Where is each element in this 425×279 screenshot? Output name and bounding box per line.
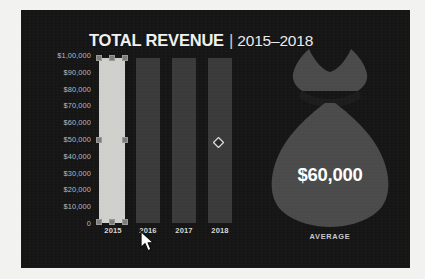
resize-handle-bottom-center[interactable]	[109, 219, 115, 225]
chart-title[interactable]: TOTAL REVENUE | 2015–2018	[89, 31, 313, 51]
chart-title-years: 2015–2018	[237, 32, 313, 50]
y-tick-label: $10,000	[29, 202, 91, 211]
average-value: $60,000	[257, 164, 403, 186]
y-tick-label: $40,000	[29, 151, 91, 160]
y-tick-label: $20,000	[29, 185, 91, 194]
y-tick-label: 0	[29, 219, 91, 228]
x-axis-labels: 2015 2016 2017 2018	[99, 226, 239, 240]
x-tick-label-2017: 2017	[168, 226, 200, 235]
chart-title-separator: |	[229, 31, 233, 51]
bar-2017[interactable]	[172, 58, 196, 223]
resize-handle-middle-left[interactable]	[96, 137, 102, 143]
x-tick-label-2015: 2015	[97, 226, 129, 235]
resize-handle-bottom-left[interactable]	[96, 219, 102, 225]
money-bag-icon	[257, 46, 403, 228]
resize-handle-top-right[interactable]	[122, 55, 128, 61]
bar-2016[interactable]	[136, 58, 160, 223]
resize-handle-bottom-right[interactable]	[122, 219, 128, 225]
y-axis-labels: $1,00,000 $90,000 $80,000 $70,000 $60,00…	[29, 55, 91, 223]
y-tick-label: $90,000	[29, 67, 91, 76]
y-tick-label: $30,000	[29, 168, 91, 177]
average-annotation-panel[interactable]: $60,000 AVERAGE	[257, 46, 403, 246]
y-tick-label: $70,000	[29, 101, 91, 110]
bar-series	[99, 58, 239, 223]
chart-canvas[interactable]: TOTAL REVENUE | 2015–2018 $1,00,000 $90,…	[21, 10, 410, 268]
resize-handle-top-left[interactable]	[96, 55, 102, 61]
resize-handle-middle-right[interactable]	[122, 137, 128, 143]
average-label: AVERAGE	[257, 232, 403, 241]
chart-title-main: TOTAL REVENUE	[89, 31, 224, 50]
y-tick-label: $60,000	[29, 118, 91, 127]
y-tick-label: $80,000	[29, 84, 91, 93]
x-tick-label-2018: 2018	[204, 226, 236, 235]
y-tick-label: $50,000	[29, 135, 91, 144]
diamond-adjust-icon[interactable]	[213, 137, 224, 148]
x-tick-label-2016: 2016	[132, 226, 164, 235]
resize-handle-top-center[interactable]	[109, 55, 115, 61]
y-tick-label: $1,00,000	[29, 51, 91, 60]
screenshot-root: TOTAL REVENUE | 2015–2018 $1,00,000 $90,…	[0, 0, 425, 279]
